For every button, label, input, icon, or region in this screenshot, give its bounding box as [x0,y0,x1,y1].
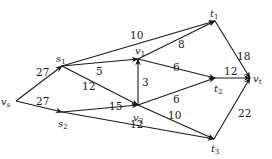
edge-capacity-label: 5 [96,65,103,77]
flow-network-diagram: 2727105121512386610181222 vss1s2v1v2t1t2… [0,0,272,159]
edge-capacity-label: 10 [130,29,143,41]
edge-capacity-label: 18 [237,50,250,62]
node-label-s1: s1 [56,53,66,66]
edge-labels-layer: 2727105121512386610181222 [36,29,251,130]
edge-capacity-label: 8 [178,38,185,50]
node-label-vt: vt [253,73,262,86]
edge-capacity-label: 3 [142,76,149,88]
edge-capacity-label: 6 [173,93,180,105]
node-label-v1: v1 [135,45,145,58]
node-label-t3: t3 [211,143,220,156]
node-label-vs: vs [1,96,11,109]
node-label-t1: t1 [210,8,219,21]
edge-capacity-label: 12 [82,80,95,92]
node-label-t2: t2 [214,83,223,96]
edge-capacity-label: 22 [238,107,251,119]
edge-capacity-label: 15 [109,100,122,112]
edge-capacity-label: 10 [168,109,181,121]
edge-capacity-label: 27 [36,66,49,78]
edge-capacity-label: 6 [173,61,180,73]
edge-capacity-label: 27 [36,95,49,107]
node-label-s2: s2 [58,118,68,131]
edge-s2-v2 [62,105,138,112]
edge-capacity-label: 12 [224,65,237,77]
